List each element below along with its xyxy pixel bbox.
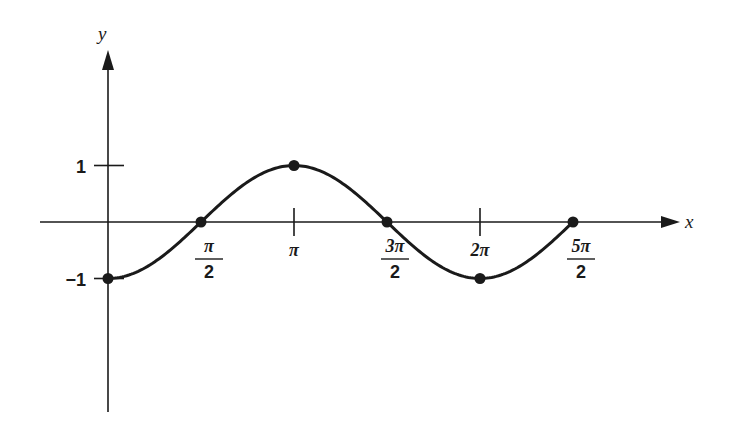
x-tick-numerator: 5π (572, 236, 592, 256)
axes: x y (40, 23, 694, 412)
data-point (382, 217, 393, 228)
x-tick-numerator: 3π (385, 236, 406, 256)
x-tick-label: 3π2 (381, 236, 409, 282)
x-axis-label: x (684, 211, 694, 232)
y-tick-label: −1 (65, 270, 86, 290)
y-axis-arrow-icon (102, 50, 114, 70)
data-point (568, 217, 579, 228)
x-axis-arrow-icon (661, 216, 680, 228)
data-point (475, 273, 486, 284)
x-tick-denominator: 2 (390, 262, 400, 282)
data-point (289, 160, 300, 171)
y-tick-label: 1 (76, 157, 86, 177)
x-tick-denominator: 2 (204, 262, 214, 282)
data-point (196, 217, 207, 228)
x-tick-label: π (289, 240, 300, 260)
y-axis-label: y (96, 23, 107, 44)
x-tick-denominator: 2 (576, 262, 586, 282)
data-point (103, 273, 114, 284)
x-tick-label: π2 (195, 236, 223, 282)
x-tick-label: 2π (470, 240, 491, 260)
x-tick-label: 5π2 (567, 236, 595, 282)
chart: x y π2π3π22π5π21−1 (0, 0, 733, 435)
x-tick-numerator: π (204, 236, 215, 256)
